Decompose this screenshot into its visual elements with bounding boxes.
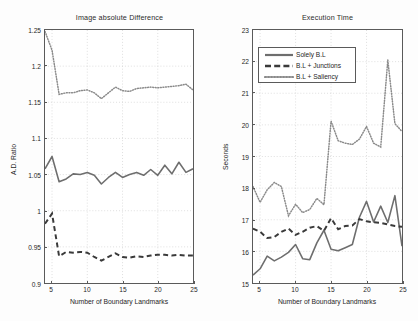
ytick-mark (252, 124, 255, 125)
ytick-mark (44, 211, 47, 212)
series-line-junctions-right (253, 218, 402, 238)
ytick-mark (252, 220, 255, 221)
ytick-label-left: 1.05 (14, 172, 41, 179)
series-line-saliency-left (45, 31, 193, 98)
legend-item-saliency: B.L + Saliency (259, 71, 355, 82)
chart-title-right: Execution Time (209, 13, 418, 22)
ytick-mark (252, 188, 255, 189)
xtick-mark (123, 281, 124, 284)
series-group-left (45, 31, 193, 260)
ytick-label-right: 17 (226, 217, 249, 224)
screenshot-root: Image absolute Difference (0, 0, 418, 321)
xtick-label-right: 20 (363, 286, 370, 293)
legend-label-solely: Solely B.L (296, 51, 326, 58)
ytick-label-right: 21 (226, 90, 249, 97)
ytick-mark (44, 29, 47, 30)
ytick-label-right: 20 (226, 122, 249, 129)
series-line-saliency-right (253, 60, 402, 216)
xtick-mark (331, 281, 332, 284)
ytick-label-right: 23 (226, 27, 249, 34)
legend-swatch-dotted-icon (264, 72, 294, 82)
ytick-label-right: 19 (226, 154, 249, 161)
xtick-mark (403, 281, 404, 284)
plot-svg-left (45, 30, 193, 283)
xtick-label-left: 25 (190, 286, 197, 293)
ytick-mark (252, 251, 255, 252)
ytick-label-left: 1 (14, 208, 41, 215)
legend-swatch-dashed-icon (264, 61, 294, 71)
xtick-label-right: 5 (257, 286, 261, 293)
ytick-mark (44, 247, 47, 248)
ytick-mark (44, 102, 47, 103)
ytick-label-left: 0.95 (14, 244, 41, 251)
xtick-label-left: 5 (49, 286, 53, 293)
ytick-mark (44, 174, 47, 175)
ytick-label-right: 15 (226, 281, 249, 288)
xaxis-label-left: Number of Boundary Landmarks (70, 298, 168, 305)
xaxis-label-right: Number of Boundary Landmarks (278, 298, 376, 305)
ytick-label-right: 18 (226, 185, 249, 192)
legend-item-junctions: B.L + Junctions (259, 60, 355, 71)
xtick-mark (51, 281, 52, 284)
xtick-mark (295, 281, 296, 284)
legend-label-junctions: B.L + Junctions (296, 62, 341, 69)
xtick-mark (87, 281, 88, 284)
ytick-mark (44, 65, 47, 66)
yaxis-label-right: Seconds (222, 144, 229, 170)
xtick-label-left: 10 (83, 286, 90, 293)
legend-label-saliency: B.L + Saliency (296, 73, 338, 80)
ytick-mark (252, 29, 255, 30)
legend-item-solely: Solely B.L (259, 49, 355, 60)
legend-box: Solely B.L B.L + Junctions B.L + Salienc… (258, 47, 356, 83)
ytick-mark (252, 156, 255, 157)
xtick-mark (259, 281, 260, 284)
xtick-mark (194, 281, 195, 284)
ytick-label-left: 1.2 (14, 63, 41, 70)
xtick-label-right: 15 (327, 286, 334, 293)
xtick-label-right: 10 (291, 286, 298, 293)
ytick-mark (252, 61, 255, 62)
xtick-mark (367, 281, 368, 284)
ytick-label-left: 0.9 (14, 281, 41, 288)
series-line-solely-left (45, 157, 193, 184)
ytick-mark (252, 283, 255, 284)
ytick-mark (44, 283, 47, 284)
xtick-label-left: 15 (119, 286, 126, 293)
ytick-label-right: 22 (226, 58, 249, 65)
ytick-mark (252, 92, 255, 93)
series-line-junctions-left (45, 214, 193, 261)
plot-area-left (44, 29, 194, 284)
ytick-label-left: 1.15 (14, 99, 41, 106)
yaxis-label-left: A.D. Ratio (10, 144, 17, 175)
xtick-mark (158, 281, 159, 284)
ytick-mark (44, 138, 47, 139)
ytick-label-left: 1.1 (14, 135, 41, 142)
gridlines-left (45, 30, 193, 283)
series-group-right (253, 60, 402, 275)
chart-title-left: Image absolute Difference (0, 13, 209, 22)
ytick-label-left: 1.25 (14, 27, 41, 34)
xtick-label-left: 20 (154, 286, 161, 293)
legend-swatch-solid-icon (264, 50, 294, 60)
ytick-label-right: 16 (226, 249, 249, 256)
figure-image-absolute-difference: Image absolute Difference (0, 0, 209, 321)
xtick-label-right: 25 (399, 286, 406, 293)
